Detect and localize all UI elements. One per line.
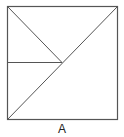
- figure-label: A: [0, 122, 124, 136]
- top-left-diagonal-line: [8, 7, 63, 63]
- geometric-figure: [0, 0, 124, 137]
